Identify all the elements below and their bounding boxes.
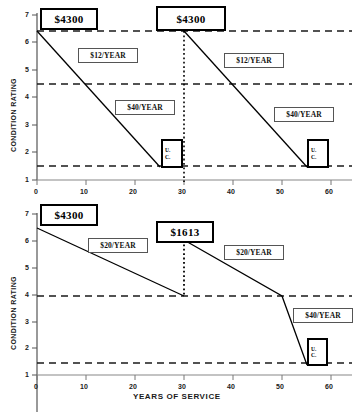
rate-label-20-year-right: $20/YEAR	[224, 245, 284, 260]
chart-top-ytick-3: 3	[25, 121, 29, 128]
cost-callout-left[interactable]: $4300	[40, 8, 98, 30]
chart-top: CONDITION RATING 7 6 5 4 3 2 1 0 10 20 3…	[0, 0, 364, 205]
chart-bottom-ytick-4: 4	[25, 291, 29, 298]
cost-callout-mid[interactable]: $4300	[156, 6, 226, 31]
rate-label-20-year-left: $20/YEAR	[88, 238, 148, 253]
chart-bottom-xtick-60: 60	[325, 383, 333, 390]
chart-bottom-ytick-7: 7	[25, 210, 29, 217]
chart-bottom-xtick-10: 10	[80, 383, 88, 390]
chart-top-xtick-40: 40	[227, 188, 235, 195]
chart-top-xtick-60: 60	[325, 188, 333, 195]
chart-bottom-ytick-1: 1	[25, 371, 29, 378]
rate-label-40-year-right: $40/YEAR	[274, 107, 334, 122]
chart-top-xtick-10: 10	[80, 188, 88, 195]
chart-top-xtick-20: 20	[129, 188, 137, 195]
deterioration-line-2	[184, 31, 307, 167]
chart-bottom-xtick-30: 30	[178, 383, 186, 390]
figure-container: CONDITION RATING 7 6 5 4 3 2 1 0 10 20 3…	[0, 0, 364, 413]
uc-box-right: U. C.	[307, 139, 329, 168]
rate-label-40-year: $40/YEAR	[293, 308, 353, 323]
chart-bottom-xtick-40: 40	[227, 383, 235, 390]
cost-callout-mid[interactable]: $1613	[156, 221, 214, 243]
uc-box-right-line2: C.	[311, 352, 316, 358]
chart-top-ytick-4: 4	[25, 93, 29, 100]
chart-bottom-ytick-2: 2	[25, 344, 29, 351]
chart-top-ytick-6: 6	[25, 38, 29, 45]
rate-label-12-year-right: $12/YEAR	[224, 53, 284, 68]
chart-top-y-axis-label: CONDITION RATING	[10, 78, 17, 152]
chart-top-ytick-2: 2	[25, 148, 29, 155]
chart-bottom-y-axis-label: CONDITION RATING	[10, 276, 17, 350]
uc-box-right-line2: C.	[311, 154, 316, 160]
uc-box-right: U. C.	[307, 338, 328, 366]
rate-label-12-year-left: $12/YEAR	[78, 48, 138, 63]
chart-bottom-xtick-50: 50	[276, 383, 284, 390]
cost-callout-left[interactable]: $4300	[40, 204, 98, 226]
chart-bottom-xtick-20: 20	[129, 383, 137, 390]
chart-top-ytick-7: 7	[25, 11, 29, 18]
chart-bottom-ytick-3: 3	[25, 318, 29, 325]
uc-box-left-line2: C.	[165, 154, 170, 160]
chart-bottom-ytick-5: 5	[25, 264, 29, 271]
chart-bottom-x-axis-label: YEARS OF SERVICE	[133, 392, 221, 401]
rate-label-40-year-left: $40/YEAR	[115, 100, 175, 115]
chart-top-xtick-50: 50	[276, 188, 284, 195]
chart-top-ytick-1: 1	[25, 176, 29, 183]
chart-bottom-ytick-6: 6	[25, 237, 29, 244]
chart-top-xtick-0: 0	[34, 188, 38, 195]
chart-top-ytick-5: 5	[25, 66, 29, 73]
chart-bottom-xtick-0: 0	[34, 383, 38, 390]
chart-bottom: CONDITION RATING YEARS OF SERVICE 7 6 5 …	[0, 200, 364, 413]
chart-top-xtick-30: 30	[178, 188, 186, 195]
uc-box-left: U. C.	[161, 139, 183, 168]
